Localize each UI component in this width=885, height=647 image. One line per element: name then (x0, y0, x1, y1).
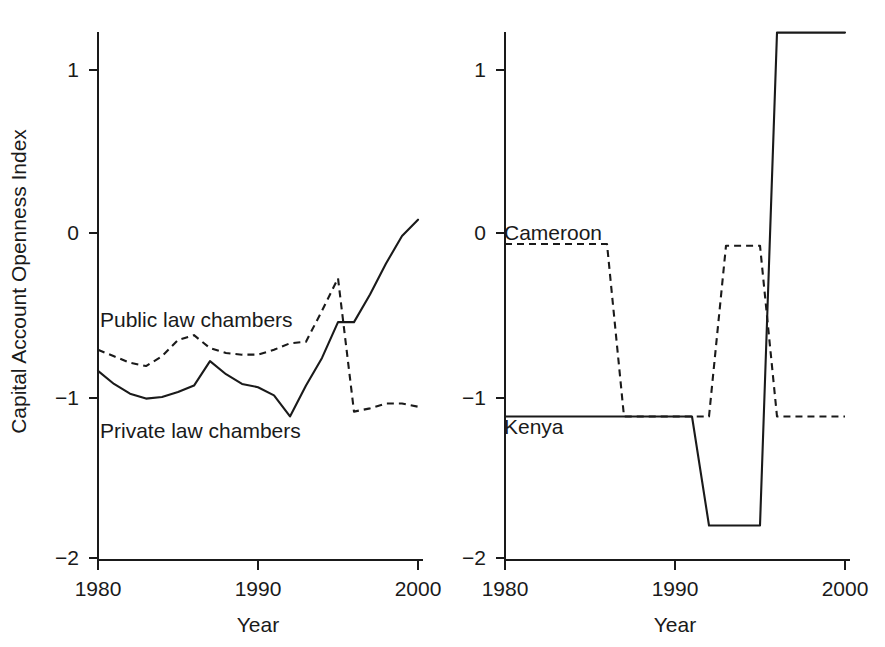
x-axis-title: Year (654, 613, 696, 636)
y-tick-label: −2 (55, 546, 79, 569)
y-tick-label: −1 (55, 386, 79, 409)
y-tick-label: −1 (462, 386, 486, 409)
x-axis-title: Year (237, 613, 279, 636)
x-tick-label: 1980 (75, 577, 122, 600)
series-line-public-law-chambers (98, 278, 418, 411)
left-panel-plot: 10−1−2198019902000YearCapital Account Op… (0, 0, 445, 647)
x-tick-label: 1990 (235, 577, 282, 600)
figure-container: 10−1−2198019902000YearCapital Account Op… (0, 0, 885, 647)
x-tick-label: 2000 (822, 577, 869, 600)
y-axis-title: Capital Account Openness Index (7, 129, 30, 434)
series-line-cameroon (505, 244, 845, 416)
chart-panel-left: 10−1−2198019902000YearCapital Account Op… (0, 0, 445, 647)
series-annotation-public-law-chambers: Public law chambers (100, 308, 293, 331)
series-annotation-cameroon: Cameroon (504, 221, 602, 244)
x-tick-label: 1980 (482, 577, 529, 600)
x-tick-label: 1990 (652, 577, 699, 600)
y-tick-label: 1 (474, 58, 486, 81)
y-tick-label: −2 (462, 546, 486, 569)
y-tick-label: 0 (67, 221, 79, 244)
y-tick-label: 1 (67, 58, 79, 81)
series-annotation-private-law-chambers: Private law chambers (100, 419, 301, 442)
series-annotation-kenya: Kenya (504, 415, 564, 438)
x-tick-label: 2000 (395, 577, 442, 600)
right-panel-plot: 10−1−2198019902000YearCameroonKenya (440, 0, 885, 647)
series-line-kenya (505, 33, 845, 526)
chart-panel-right: 10−1−2198019902000YearCameroonKenya (440, 0, 885, 647)
y-tick-label: 0 (474, 221, 486, 244)
